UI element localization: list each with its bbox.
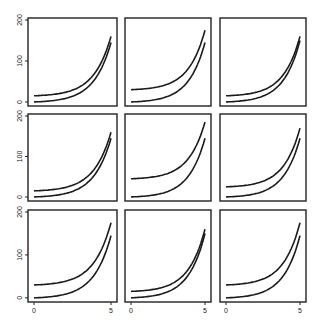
panel-r1c3 [220,18,306,106]
y-tick-label: 200 [16,110,23,122]
panel-r2c1: 0100200 [16,110,117,201]
y-tick-label: 200 [16,14,23,26]
y-tick-label: 0 [16,100,23,104]
panel-r1c1: 0100200 [16,14,117,106]
curve-lower [131,138,205,197]
curve-lower [34,43,111,103]
panel-r1c2 [125,18,211,106]
panel-r3c1: 010020005 [16,206,117,314]
curve-upper [34,36,111,95]
curve-lower [131,234,205,298]
curve-lower [34,236,111,298]
x-tick-label: 5 [203,307,207,314]
small-multiples-chart: 010020001002000100200050505 [0,0,321,327]
curve-upper [34,223,111,285]
panel-r2c2 [125,114,211,201]
y-tick-label: 100 [16,55,23,67]
curve-upper [34,132,111,191]
curve-lower [226,138,300,197]
curve-upper [131,30,205,89]
x-tick-label: 0 [32,307,36,314]
x-tick-label: 5 [109,307,113,314]
curve-lower [226,236,300,298]
y-tick-label: 0 [16,296,23,300]
curve-upper [131,122,205,179]
curve-lower [131,43,205,103]
x-tick-label: 0 [224,307,228,314]
y-tick-label: 200 [16,206,23,218]
curve-upper [226,223,300,285]
curve-lower [226,41,300,103]
y-tick-label: 0 [16,195,23,199]
panel-r3c2: 05 [125,210,211,314]
curve-lower [34,138,111,197]
x-tick-label: 5 [298,307,302,314]
y-tick-label: 100 [16,151,23,163]
panel-r3c3: 05 [220,210,306,314]
curve-upper [226,36,300,95]
y-tick-label: 100 [16,249,23,261]
panel-r2c3 [220,114,306,201]
x-tick-label: 0 [129,307,133,314]
curve-upper [131,229,205,291]
curve-upper [226,128,300,187]
